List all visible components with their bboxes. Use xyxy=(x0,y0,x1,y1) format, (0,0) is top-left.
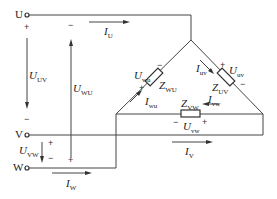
sign-uv-phase-minus: − xyxy=(240,80,245,89)
sign-vw-phase-minus: − xyxy=(173,118,178,127)
voltage-label-vw: UVW xyxy=(19,145,39,159)
impedance-label-vw: ZVW xyxy=(181,98,199,112)
sign-vw-phase-plus: + xyxy=(202,118,207,127)
terminal-v xyxy=(25,133,29,137)
impedance-label-wu: ZWU xyxy=(159,80,177,94)
terminal-label-w: W xyxy=(13,162,23,173)
current-label-uv: Iuv xyxy=(196,63,207,77)
sign-wu-phase-minus: − xyxy=(157,61,162,70)
sign-uv-minus: − xyxy=(24,115,29,124)
phase-voltage-label-uv: Uuv xyxy=(229,65,244,79)
current-label-u: IU xyxy=(104,26,113,40)
impedance-label-uv: ZUV xyxy=(212,82,228,96)
circuit-wiring xyxy=(0,0,277,199)
current-label-wu: Iwu xyxy=(145,96,157,110)
current-label-v: IV xyxy=(185,146,194,160)
terminal-label-u: U xyxy=(15,9,23,20)
voltage-label-uv: UUV xyxy=(29,70,47,84)
sign-uv-plus: + xyxy=(24,23,29,32)
current-label-w: IW xyxy=(66,178,76,192)
phase-voltage-label-vw: Uvw xyxy=(183,121,200,135)
sign-uv-phase-plus: + xyxy=(220,61,225,70)
terminal-w xyxy=(25,166,29,170)
sign-vw-plus: + xyxy=(48,139,53,148)
sign-wu-plus: + xyxy=(68,156,73,165)
terminal-u xyxy=(25,13,29,17)
voltage-label-wu: UWU xyxy=(73,83,93,97)
terminal-label-v: V xyxy=(15,129,23,140)
sign-vw-minus: − xyxy=(48,154,53,163)
sign-wu-phase-plus: + xyxy=(139,84,144,93)
sign-wu-minus: − xyxy=(68,21,73,30)
